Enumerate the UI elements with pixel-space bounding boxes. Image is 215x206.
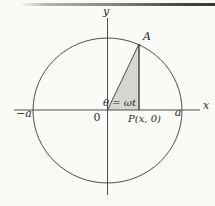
point-A-label: A (142, 30, 151, 43)
negative-a-label: −a (16, 107, 32, 120)
point-P-label: P(x, 0) (127, 113, 161, 124)
circle-diagram: y x A −a a 0 P(x, 0) θ = ωt (0, 0, 215, 206)
diagram-canvas: y x A −a a 0 P(x, 0) θ = ωt (0, 0, 215, 206)
origin-label: 0 (94, 111, 101, 124)
positive-a-label: a (175, 106, 182, 119)
angle-equation-label: θ = ωt (103, 97, 137, 108)
x-axis-label: x (203, 99, 210, 112)
y-axis-label: y (102, 5, 110, 18)
